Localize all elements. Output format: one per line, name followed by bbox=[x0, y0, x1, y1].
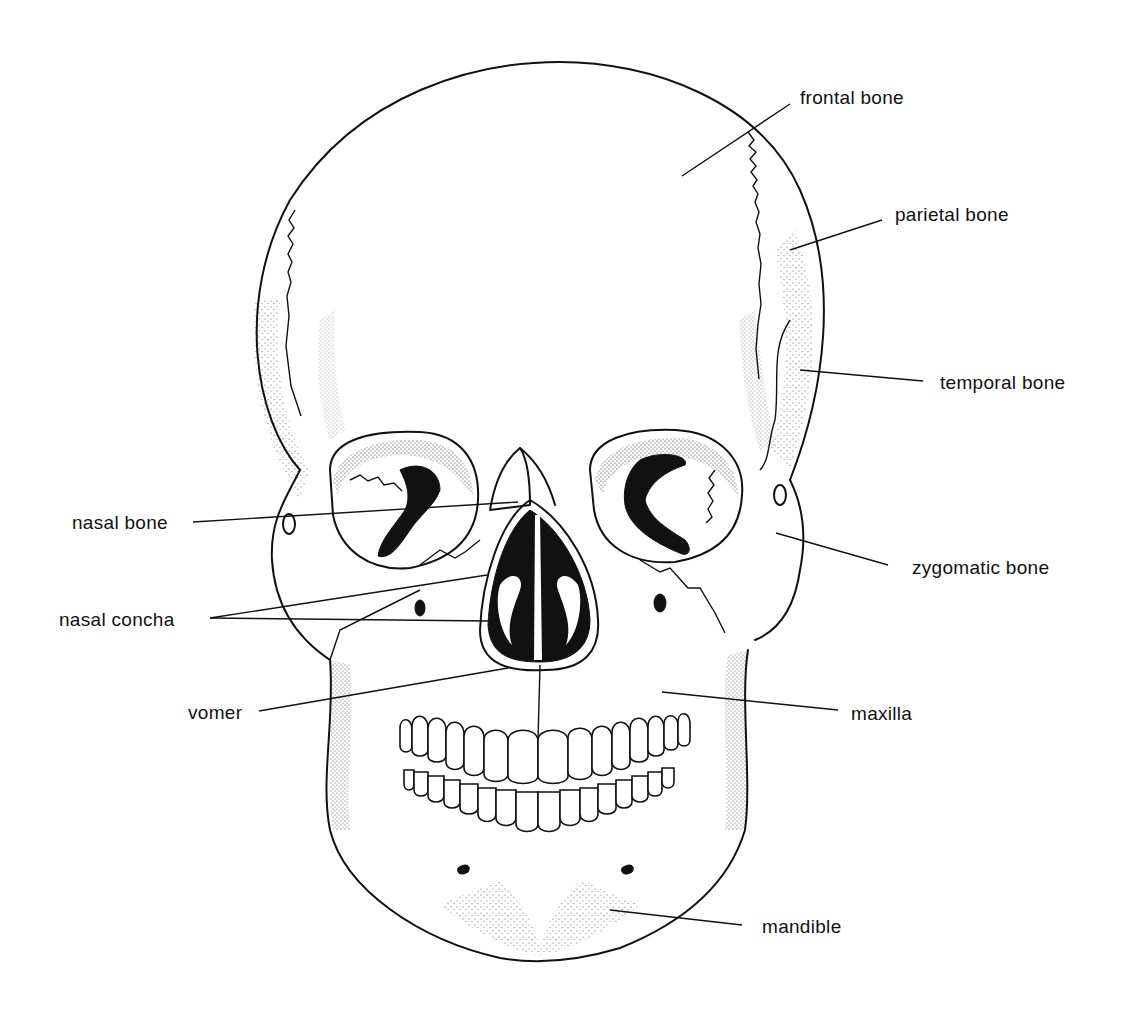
label-frontal-bone: frontal bone bbox=[800, 88, 904, 107]
upper-teeth bbox=[400, 714, 690, 784]
label-zygomatic-bone: zygomatic bone bbox=[912, 558, 1049, 577]
label-mandible: mandible bbox=[762, 917, 842, 936]
leader-vomer bbox=[259, 668, 508, 711]
label-temporal-bone: temporal bone bbox=[940, 373, 1065, 392]
leader-nasal-bone bbox=[193, 502, 518, 522]
leader-nasal-concha-1 bbox=[210, 575, 487, 618]
skull-illustration bbox=[0, 0, 1144, 1013]
leader-mandible bbox=[610, 910, 742, 925]
label-maxilla: maxilla bbox=[851, 704, 912, 723]
label-nasal-concha: nasal concha bbox=[59, 610, 175, 629]
leader-maxilla bbox=[662, 692, 838, 710]
label-vomer: vomer bbox=[188, 703, 242, 722]
label-parietal-bone: parietal bone bbox=[895, 205, 1009, 224]
leader-zygomatic bbox=[776, 533, 888, 565]
leader-nasal-concha-2 bbox=[210, 618, 489, 621]
leader-parietal bbox=[790, 220, 882, 250]
label-nasal-bone: nasal bone bbox=[72, 513, 168, 532]
skull-diagram: frontal bone parietal bone temporal bone… bbox=[0, 0, 1144, 1013]
